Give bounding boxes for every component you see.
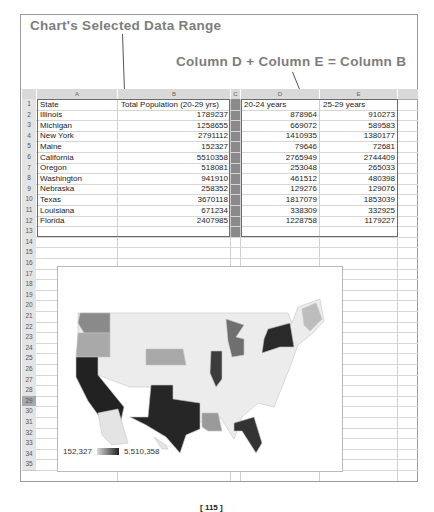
geo-chart[interactable]: 152,327 5,510,358 <box>57 266 343 472</box>
row-divider <box>36 258 418 259</box>
row-header-35[interactable]: 35 <box>22 459 36 471</box>
selected-range-callout: Chart's Selected Data Range <box>30 18 221 33</box>
chart-legend: 152,327 5,510,358 <box>63 447 160 456</box>
legend-gradient <box>97 448 119 455</box>
page-number: [ 115 ] <box>200 503 223 512</box>
legend-min: 152,327 <box>63 447 92 456</box>
selected-range-d-e <box>241 99 398 237</box>
legend-max: 5,510,358 <box>124 447 160 456</box>
row-divider <box>36 247 418 248</box>
selected-range-a-b <box>37 99 230 237</box>
column-header-f[interactable] <box>398 89 418 100</box>
formula-callout: Column D + Column E = Column B <box>176 54 406 69</box>
usa-map <box>58 267 342 471</box>
